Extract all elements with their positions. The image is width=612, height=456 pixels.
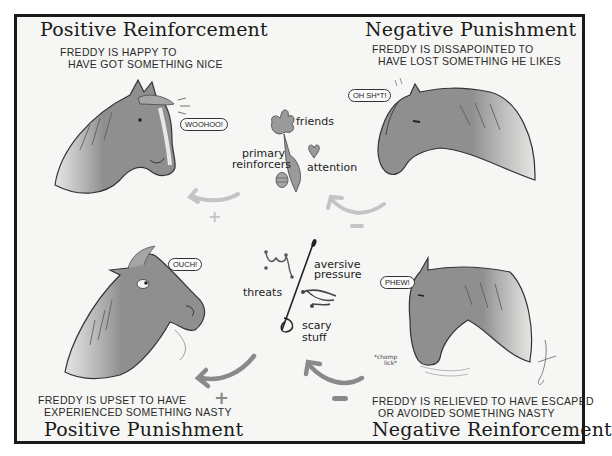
label-aversive-pressure: aversive pressure	[314, 260, 362, 280]
artist-signature	[538, 340, 556, 384]
spur-icon	[301, 290, 336, 308]
title-negative-reinforcement: Negative Reinforcement	[372, 418, 612, 440]
horse-relieved	[409, 258, 531, 376]
caption-line: FREDDY IS UPSET TO HAVE	[38, 394, 232, 406]
label-attention: attention	[307, 162, 357, 173]
note-line: lick*	[374, 360, 397, 366]
horse-happy	[55, 80, 190, 193]
label-line: pressure	[314, 270, 362, 280]
chomp-lick-note: *chomp lick*	[374, 354, 397, 366]
label-friends: friends	[296, 116, 334, 127]
title-positive-reinforcement: Positive Reinforcement	[40, 18, 268, 40]
label-primary-reinforcers: primary reinforcers	[236, 148, 291, 170]
title-negative-punishment: Negative Punishment	[365, 18, 576, 40]
arrow-positive-punishment	[198, 356, 254, 386]
caption-positive-punishment: FREDDY IS UPSET TO HAVE EXPERIENCED SOME…	[38, 394, 232, 418]
arrow-positive-reinforcement	[190, 190, 238, 202]
title-positive-punishment: Positive Punishment	[44, 418, 243, 440]
speech-bubble-ouch: OUCH!	[168, 258, 202, 271]
speech-bubble-oh-sht: OH SH*T!	[348, 89, 391, 102]
speech-bubble-woohoo: WOOHOO!	[180, 118, 228, 131]
caption-line: FREDDY IS DISSAPOINTED TO	[372, 43, 561, 55]
caption-negative-reinforcement: FREDDY IS RELIEVED TO HAVE ESCAPED OR AV…	[372, 395, 594, 419]
label-line: stuff	[302, 332, 332, 344]
caption-negative-punishment: FREDDY IS DISSAPOINTED TO HAVE LOST SOME…	[372, 43, 561, 67]
caption-line: EXPERIENCED SOMETHING NASTY	[38, 406, 232, 418]
sign-minus-bottom	[332, 396, 348, 401]
bit-icon	[264, 250, 294, 279]
hand-icon	[271, 110, 294, 134]
caption-line: FREDDY IS HAPPY TO	[60, 46, 223, 58]
treat-icon	[276, 173, 288, 188]
heart-icon	[309, 145, 320, 158]
caption-line: FREDDY IS RELIEVED TO HAVE ESCAPED	[372, 395, 594, 407]
caption-line: HAVE GOT SOMETHING NICE	[60, 58, 223, 70]
whip-icon	[281, 238, 317, 332]
caption-line: HAVE LOST SOMETHING HE LIKES	[372, 55, 561, 67]
sign-plus-top: +	[208, 207, 221, 226]
horse-disappointed	[378, 78, 535, 180]
caption-positive-reinforcement: FREDDY IS HAPPY TO HAVE GOT SOMETHING NI…	[60, 46, 223, 70]
sign-minus-top	[350, 224, 364, 228]
arrow-negative-reinforcement	[306, 362, 362, 383]
arrow-negative-punishment	[328, 197, 384, 213]
label-scary-stuff: scary stuff	[302, 320, 332, 344]
label-threats: threats	[243, 287, 282, 298]
speech-bubble-phew: PHEW!	[380, 276, 415, 289]
label-line: reinforcers	[232, 159, 291, 170]
